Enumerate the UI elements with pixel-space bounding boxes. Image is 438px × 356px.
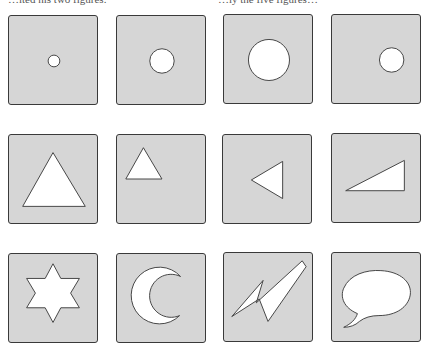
caption-left: …ited his two figures. [8, 0, 106, 5]
offset-circle-icon [332, 15, 420, 103]
speech-bubble-icon [332, 253, 420, 341]
large-circle-icon [224, 15, 312, 103]
left-pointing-triangle-icon [223, 135, 311, 223]
card-offset-circle [331, 14, 421, 104]
card-speech-bubble [331, 252, 421, 342]
lightning-bolt-icon [224, 253, 312, 341]
right-triangle-icon [332, 134, 420, 222]
large-triangle-icon [9, 135, 97, 223]
six-pointed-star-icon [9, 254, 97, 342]
caption-right: …ly the five figures… [218, 0, 318, 5]
medium-circle-icon [117, 16, 205, 104]
card-small-circle [8, 15, 98, 105]
small-offset-triangle-icon [117, 135, 205, 223]
card-medium-circle [116, 15, 206, 105]
card-large-circle [223, 14, 313, 104]
card-left-triangle [222, 134, 312, 224]
card-small-offset-triangle [116, 134, 206, 224]
card-crescent [116, 253, 206, 343]
card-star [8, 253, 98, 343]
card-right-triangle [331, 133, 421, 223]
crescent-moon-icon [117, 254, 205, 342]
card-lightning [223, 252, 313, 342]
small-circle-icon [9, 16, 97, 104]
card-large-triangle [8, 134, 98, 224]
